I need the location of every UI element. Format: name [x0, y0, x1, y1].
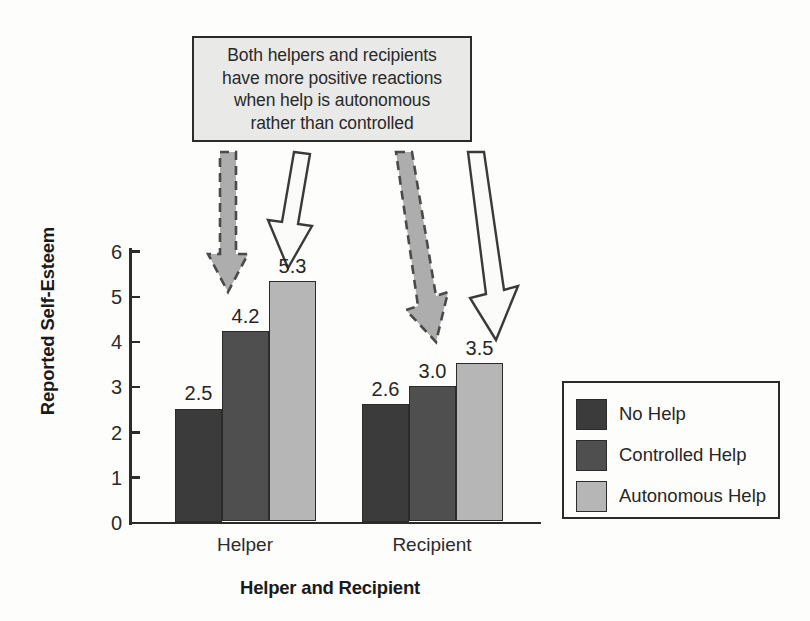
y-tick-label-3: 3	[96, 376, 122, 399]
y-tick-1	[129, 476, 140, 479]
legend: No Help Controlled Help Autonomous Help	[562, 381, 780, 519]
arrow-solid-helper-autonomous	[262, 150, 334, 272]
bar-value-helper-autonomous-help: 5.3	[279, 255, 307, 278]
y-tick-6	[129, 250, 140, 253]
arrow-dashed-recipient-controlled	[392, 150, 466, 346]
y-axis-title: Reported Self-Esteem	[37, 211, 59, 431]
legend-label-no-help: No Help	[619, 403, 686, 425]
bar-value-helper-controlled-help: 4.2	[232, 305, 260, 328]
annotation-line-4: rather than controlled	[250, 112, 413, 135]
y-tick-label-4: 4	[96, 331, 122, 354]
y-axis-tick-labels: 0 1 2 3 4 5 6	[70, 0, 122, 621]
bar-recipient-no-help	[362, 404, 409, 522]
bar-helper-autonomous-help	[269, 281, 316, 521]
x-axis-title: Helper and Recipient	[130, 577, 530, 599]
category-label-recipient: Recipient	[392, 534, 471, 556]
y-tick-label-5: 5	[96, 286, 122, 309]
legend-item-controlled-help[interactable]: Controlled Help	[576, 436, 778, 474]
legend-label-controlled-help: Controlled Help	[619, 444, 747, 466]
legend-swatch-controlled-help	[576, 440, 607, 471]
y-tick-5	[129, 296, 140, 299]
chart-figure: Both helpers and recipients have more po…	[0, 0, 810, 621]
bar-value-recipient-no-help: 2.6	[372, 378, 400, 401]
y-tick-label-0: 0	[96, 512, 122, 535]
bar-helper-no-help	[175, 409, 222, 522]
arrow-dashed-helper-controlled	[206, 150, 262, 296]
annotation-line-1: Both helpers and recipients	[227, 44, 436, 67]
category-label-helper: Helper	[217, 534, 273, 556]
y-tick-0	[129, 522, 140, 525]
bar-recipient-controlled-help	[409, 386, 456, 522]
legend-swatch-autonomous-help	[576, 481, 607, 512]
legend-item-no-help[interactable]: No Help	[576, 395, 778, 433]
legend-item-autonomous-help[interactable]: Autonomous Help	[576, 477, 778, 515]
y-tick-label-1: 1	[96, 466, 122, 489]
annotation-line-3: when help is autonomous	[234, 89, 430, 112]
y-tick-label-2: 2	[96, 421, 122, 444]
bar-value-recipient-controlled-help: 3.0	[419, 360, 447, 383]
y-tick-2	[129, 431, 140, 434]
arrow-solid-recipient-autonomous	[446, 150, 532, 346]
x-axis-line	[129, 522, 541, 525]
y-tick-label-6: 6	[96, 240, 122, 263]
y-tick-3	[129, 386, 140, 389]
y-tick-4	[129, 341, 140, 344]
annotation-line-2: have more positive reactions	[222, 67, 442, 90]
legend-label-autonomous-help: Autonomous Help	[619, 485, 766, 507]
bar-value-helper-no-help: 2.5	[185, 382, 213, 405]
bar-recipient-autonomous-help	[456, 363, 503, 521]
annotation-callout: Both helpers and recipients have more po…	[192, 36, 472, 142]
bar-value-recipient-autonomous-help: 3.5	[466, 337, 494, 360]
legend-swatch-no-help	[576, 399, 607, 430]
bar-helper-controlled-help	[222, 331, 269, 521]
